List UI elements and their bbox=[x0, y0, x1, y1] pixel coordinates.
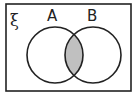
set-b-label: B bbox=[87, 7, 97, 25]
set-a-label: A bbox=[47, 7, 58, 25]
universal-set-symbol: ξ bbox=[10, 11, 19, 30]
venn-diagram: ξ A B bbox=[0, 0, 137, 96]
